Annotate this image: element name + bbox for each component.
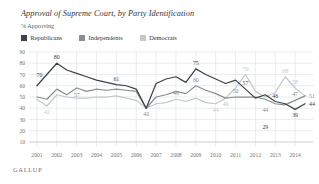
data-point-label: 48 [173,90,179,96]
square-swatch-icon [21,35,27,41]
svg-text:30: 30 [19,117,25,123]
svg-text:2009: 2009 [190,152,201,158]
legend-item-label: Republicans [31,34,63,41]
svg-text:2012: 2012 [250,152,261,158]
brand-footer: GALLUP [13,166,42,173]
data-point-label: 40 [143,111,149,117]
data-series [37,63,305,109]
data-point-label: 46 [272,93,278,99]
data-point-label: 42 [44,109,50,115]
y-axis-ticks: 908070605040302010 [19,49,25,145]
svg-text:2010: 2010 [210,152,221,158]
x-axis-ticks: 2001200220032004200520062007200820092010… [31,152,301,158]
svg-text:2007: 2007 [151,152,162,158]
data-point-label: 29 [262,124,268,130]
svg-text:2006: 2006 [131,152,142,158]
svg-text:70: 70 [19,72,25,78]
legend-item-label: Independents [89,34,123,41]
page-title: Approval of Supreme Court, by Party Iden… [21,9,194,18]
svg-text:2013: 2013 [270,152,281,158]
chart-legend: Republicans Independents Democrats [21,34,194,41]
svg-text:2002: 2002 [51,152,62,158]
square-swatch-icon [79,35,85,41]
data-point-label: 57 [74,92,80,98]
legend-item-independents[interactable]: Independents [79,34,123,41]
svg-text:60: 60 [19,83,25,89]
data-point-label: 44 [262,107,268,113]
svg-text:2008: 2008 [170,152,181,158]
legend-item-label: Democrats [149,34,177,41]
data-point-label: 47 [292,91,298,97]
svg-text:2003: 2003 [71,152,82,158]
svg-text:2005: 2005 [111,152,122,158]
chart-plot-area: 908070605040302010 200120022003200420052… [0,46,319,158]
svg-text:80: 80 [19,60,25,66]
data-point-label: 70 [36,72,42,78]
data-point-label: 44 [309,101,315,107]
data-point-label: 49 [223,101,229,107]
data-point-label: 61 [113,76,119,82]
data-point-label: 70 [243,66,249,72]
svg-text:90: 90 [19,49,25,55]
svg-text:2004: 2004 [91,152,102,158]
data-point-label: 80 [54,54,60,60]
data-point-label: 60 [193,77,199,83]
chart-card: Approval of Supreme Court, by Party Iden… [0,0,319,184]
svg-text:2014: 2014 [290,152,301,158]
data-point-label: 75 [193,60,199,66]
chart-subtitle: % Approving [21,22,54,29]
svg-text:2011: 2011 [230,152,241,158]
data-point-label: 44 [213,107,219,113]
legend-item-republicans[interactable]: Republicans [21,34,62,41]
data-point-label: 51 [309,93,315,99]
data-point-label: 58 [292,79,298,85]
svg-text:50: 50 [19,94,25,100]
svg-text:40: 40 [19,105,25,111]
svg-text:2001: 2001 [31,152,42,158]
data-point-label: 68 [282,68,288,74]
legend-item-democrats[interactable]: Democrats [140,34,177,41]
svg-text:20: 20 [19,128,25,134]
line-chart-svg: 908070605040302010 200120022003200420052… [0,46,319,158]
data-point-label: 39 [292,112,298,118]
svg-text:10: 10 [19,139,25,145]
square-swatch-icon [140,35,146,41]
data-point-label: 57 [243,80,249,86]
grid-lines [29,52,313,146]
series-line-republicans [37,63,305,109]
data-point-label: 50 [233,88,239,94]
